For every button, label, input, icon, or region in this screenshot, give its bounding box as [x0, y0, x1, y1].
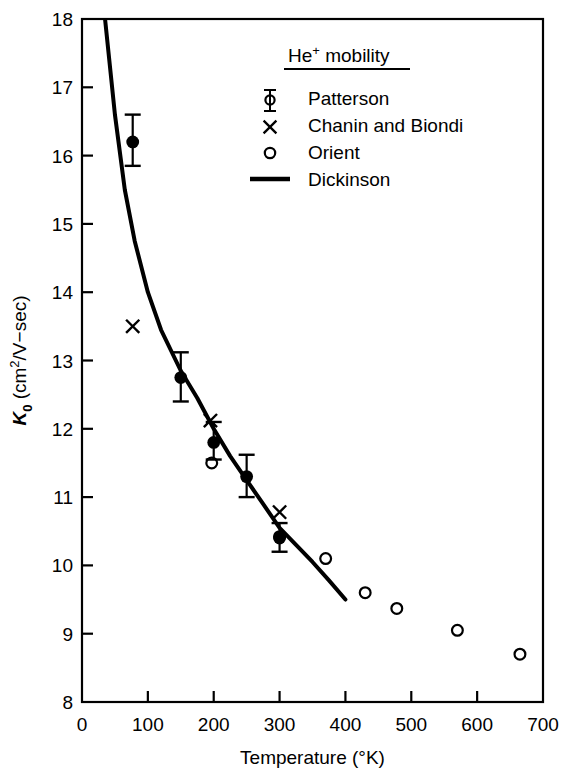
x-tick-label: 0	[77, 714, 88, 735]
legend-marker-open-circle-icon	[265, 148, 275, 158]
legend-item-patterson: Patterson	[264, 88, 389, 111]
y-tick-label: 13	[52, 351, 73, 372]
legend-item-label: Chanin and Biondi	[308, 115, 463, 136]
chart-legend: He+ mobilityPattersonChanin and BiondiOr…	[250, 43, 463, 190]
legend-item-label: Dickinson	[308, 169, 390, 190]
x-tick-label: 100	[132, 714, 164, 735]
data-point-patterson	[272, 523, 288, 552]
y-tick-label: 16	[52, 146, 73, 167]
data-point-orient	[452, 625, 463, 636]
x-tick-label: 400	[330, 714, 362, 735]
figure-container: 0100200300400500600700891011121314151617…	[0, 0, 567, 768]
data-point-chanin-biondi	[273, 506, 286, 519]
x-axis-label: Temperature (°K)	[240, 747, 385, 768]
y-tick-label: 11	[53, 487, 73, 508]
data-point-chanin-biondi	[126, 320, 139, 333]
y-tick-label: 10	[52, 555, 73, 576]
data-point-orient	[320, 553, 331, 564]
mobility-scatter-chart: 0100200300400500600700891011121314151617…	[0, 0, 567, 768]
data-point-patterson	[206, 422, 222, 460]
y-tick-label: 17	[52, 77, 73, 98]
data-point-orient	[391, 603, 402, 614]
data-point-orient	[360, 587, 371, 598]
y-axis-label: K0 (cm2/V−sec)	[7, 295, 35, 425]
legend-item-label: Orient	[308, 142, 360, 163]
y-tick-label: 18	[52, 9, 73, 30]
legend-title: He+ mobility	[288, 43, 390, 66]
y-tick-label: 9	[62, 624, 73, 645]
x-tick-label: 300	[264, 714, 296, 735]
legend-item-chanin-and-biondi: Chanin and Biondi	[264, 115, 464, 136]
data-point-orient	[515, 649, 526, 660]
y-tick-label: 8	[62, 692, 73, 713]
data-point-patterson	[125, 115, 141, 166]
x-tick-label: 700	[527, 714, 559, 735]
y-tick-label: 15	[52, 214, 73, 235]
legend-item-orient: Orient	[265, 142, 361, 163]
y-tick-label: 12	[52, 419, 73, 440]
x-tick-label: 200	[198, 714, 230, 735]
legend-item-dickinson: Dickinson	[250, 169, 390, 190]
y-tick-label: 14	[52, 282, 74, 303]
x-tick-label: 600	[461, 714, 493, 735]
legend-marker-patterson-icon	[264, 90, 276, 111]
legend-marker-cross-x-icon	[264, 121, 277, 134]
legend-item-label: Patterson	[308, 88, 389, 109]
x-tick-label: 500	[395, 714, 427, 735]
